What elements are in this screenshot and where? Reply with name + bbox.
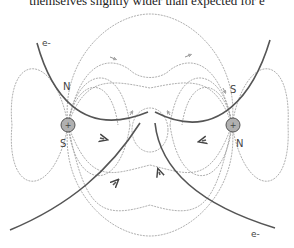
electron-label-bottom-right: e- xyxy=(251,229,260,239)
left-particle-sign: + xyxy=(65,121,72,130)
left-south-label: S xyxy=(60,138,66,149)
dipole-diagram: + + e- e- N S S N xyxy=(0,0,294,248)
left-north-label: N xyxy=(63,81,70,92)
right-north-label: N xyxy=(236,138,243,149)
electron-label-top-left: e- xyxy=(42,38,51,48)
electron-trajectories xyxy=(10,40,275,230)
right-south-label: S xyxy=(230,84,236,95)
right-particle: + xyxy=(226,118,240,132)
left-particle: + xyxy=(61,118,75,132)
field-lines xyxy=(11,14,288,236)
right-particle-sign: + xyxy=(230,121,237,130)
